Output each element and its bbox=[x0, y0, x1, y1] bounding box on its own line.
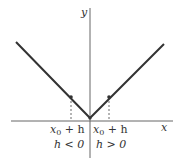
y-axis-label: y bbox=[80, 6, 88, 19]
right-condition-label: h > 0 bbox=[96, 138, 126, 151]
abs-value-diagram: y x x0 + h h < 0 x0 + h h > 0 bbox=[0, 0, 181, 165]
vertex-marker bbox=[88, 116, 91, 119]
left-point-marker bbox=[69, 95, 73, 99]
right-point-label: x0 + h bbox=[93, 123, 128, 137]
x-axis-label: x bbox=[161, 121, 168, 134]
left-condition-label: h < 0 bbox=[54, 138, 84, 151]
right-point-marker bbox=[107, 95, 111, 99]
left-point-label: x0 + h bbox=[50, 123, 85, 137]
